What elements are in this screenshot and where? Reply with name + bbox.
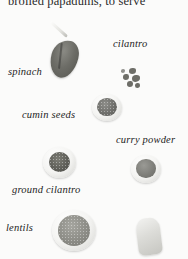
cumin-texture [97,98,116,116]
label-ground-cilantro: ground cilantro [12,184,80,195]
label-curry-powder: curry powder [116,134,175,145]
spinach-blade [47,37,82,80]
label-cumin-seeds: cumin seeds [22,109,75,120]
bowl-of-lentils-icon [52,210,96,251]
ground-cilantro-texture [49,152,70,172]
lentils-contents [58,215,91,246]
ground-cilantro-contents [49,152,70,172]
label-spinach: spinach [8,66,42,77]
bowl-of-ground-cilantro-icon [43,147,76,178]
lentils-texture [58,215,91,246]
bowl-of-cumin-seeds-icon [92,94,122,121]
pale-wedge-object-icon [135,217,163,257]
label-cilantro: cilantro [113,38,147,49]
curry-powder-contents [136,159,155,177]
spinach-leaf-icon [43,27,88,82]
bowl-of-curry-powder-icon [131,155,161,183]
ingredient-photo-page: broiled papadums, to serve spinach cilan… [0,0,188,259]
page-heading: broiled papadums, to serve [8,0,188,9]
spinach-stem [50,21,68,38]
cilantro-sprig-icon [120,66,146,92]
label-lentils: lentils [6,222,33,233]
cumin-seeds-contents [97,98,116,116]
